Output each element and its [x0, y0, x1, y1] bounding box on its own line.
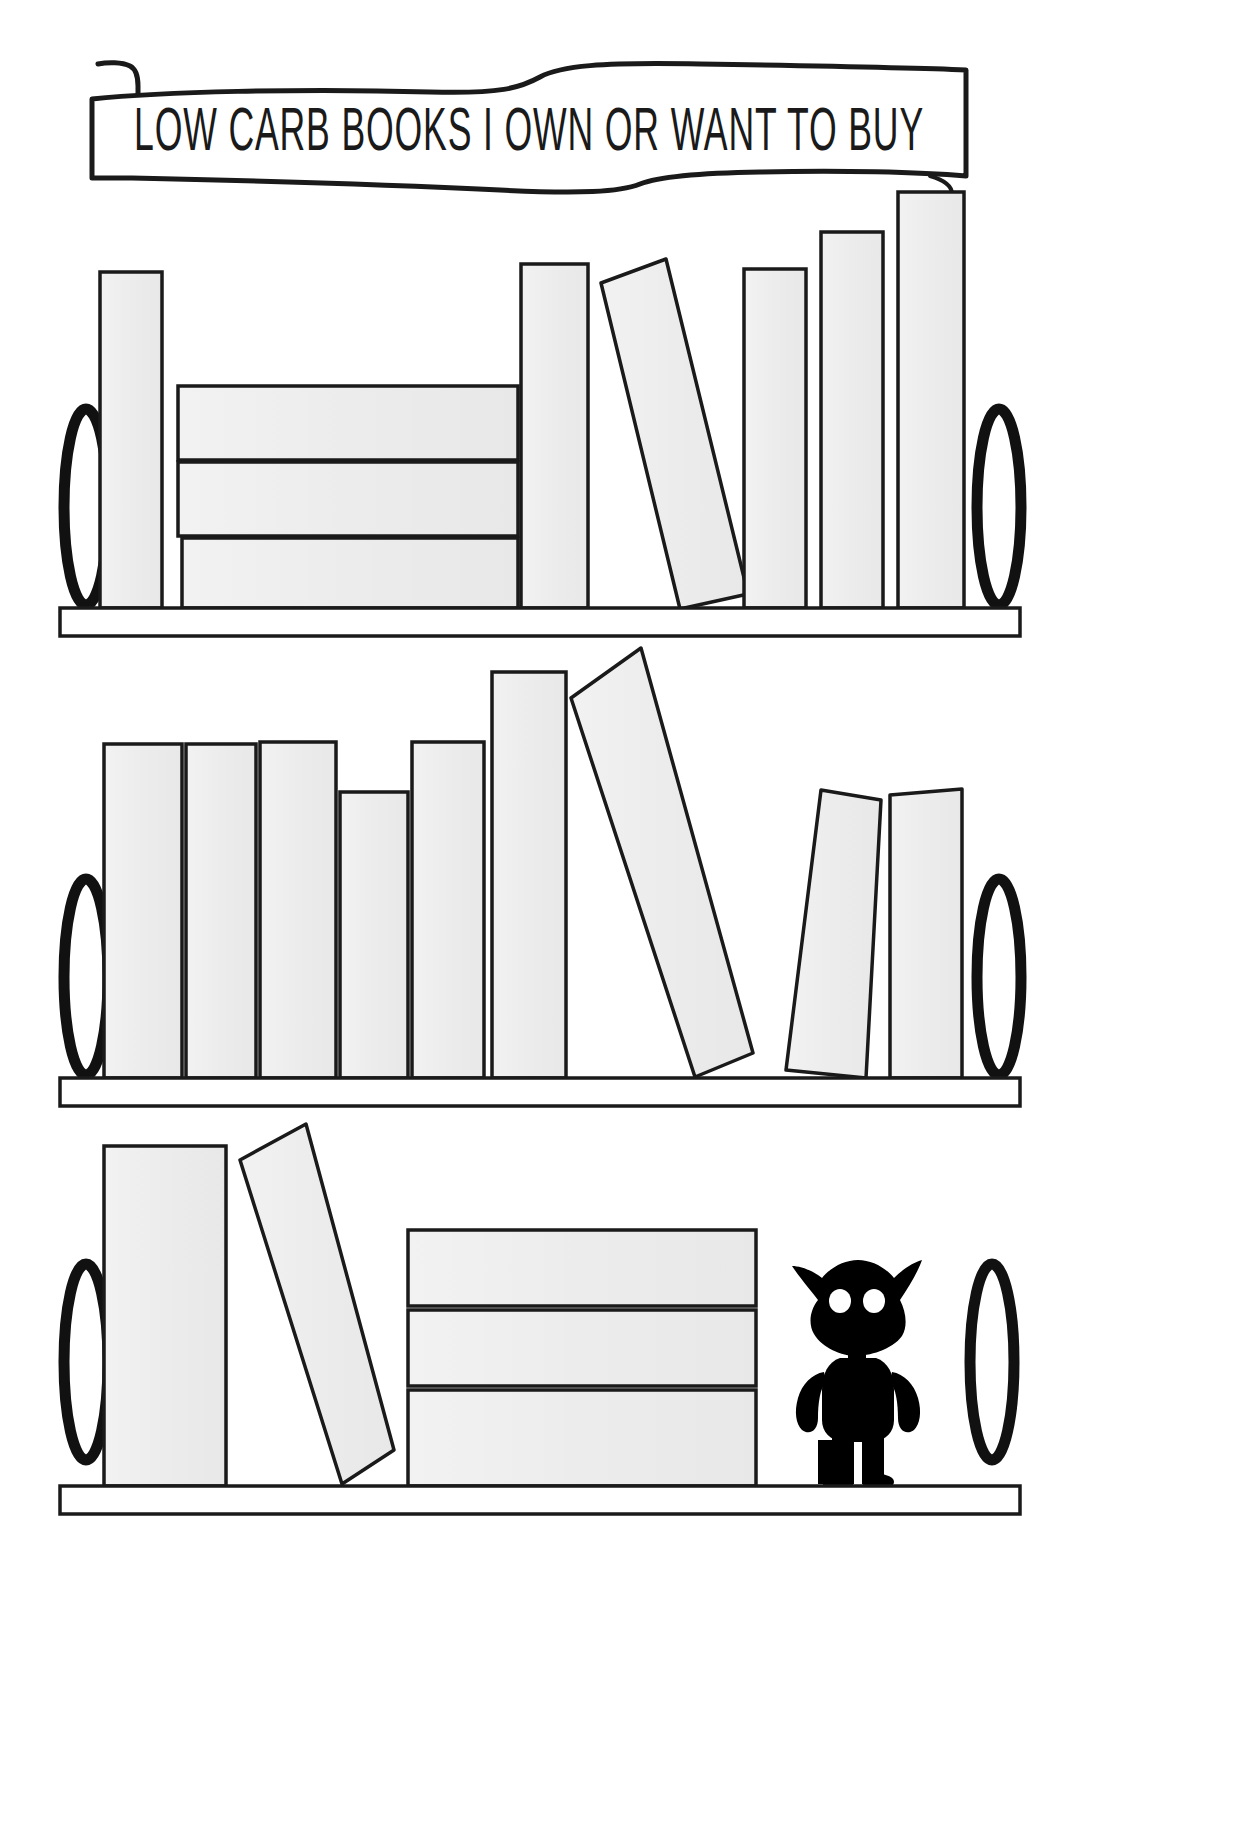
figure-torso [822, 1358, 894, 1442]
shelf-board [60, 1078, 1020, 1106]
figure-eye-right [863, 1289, 885, 1313]
book-flat[interactable] [178, 386, 518, 460]
figure-head [792, 1260, 922, 1356]
book-spine-tilted[interactable] [786, 790, 881, 1078]
book-spine[interactable] [821, 232, 883, 608]
shelf-top [60, 192, 1021, 636]
book-spine[interactable] [412, 742, 484, 1078]
book-spine[interactable] [260, 742, 336, 1078]
figure-arm-right [890, 1372, 920, 1432]
bookend-right-bottom [970, 1264, 1014, 1460]
title-banner: LOW CARB BOOKS I OWN OR WANT TO BUY [92, 63, 966, 194]
book-spine-tilted[interactable] [240, 1124, 394, 1484]
bookend-left-middle [64, 879, 108, 1075]
bookend-right-middle [977, 879, 1021, 1075]
book-spine[interactable] [898, 192, 964, 608]
book-spine[interactable] [492, 672, 566, 1078]
book-spine[interactable] [100, 272, 162, 608]
creature-figurine[interactable] [792, 1260, 922, 1490]
book-spine[interactable] [104, 744, 182, 1078]
book-spine-tilted[interactable] [571, 648, 753, 1077]
bookend-right-top [977, 409, 1021, 605]
banner-title: LOW CARB BOOKS I OWN OR WANT TO BUY [134, 94, 924, 163]
bookend-left-bottom [64, 1264, 108, 1460]
book-flat[interactable] [408, 1390, 756, 1486]
book-flat[interactable] [408, 1230, 756, 1306]
book-spine[interactable] [744, 269, 806, 608]
book-flat[interactable] [408, 1310, 756, 1386]
shelf-bottom [60, 1124, 1020, 1514]
shelf-middle [60, 648, 1021, 1106]
book-flat[interactable] [182, 538, 518, 608]
book-spine[interactable] [186, 744, 256, 1078]
bookshelf-worksheet-page: LOW CARB BOOKS I OWN OR WANT TO BUY [0, 0, 1252, 1826]
book-spine[interactable] [890, 789, 962, 1078]
book-spine[interactable] [340, 792, 408, 1078]
shelf-board [60, 608, 1020, 636]
book-spine[interactable] [104, 1146, 226, 1486]
shelf-board [60, 1486, 1020, 1514]
figure-arm-left [796, 1372, 826, 1432]
bookshelf-illustration: LOW CARB BOOKS I OWN OR WANT TO BUY [0, 0, 1252, 1826]
book-spine[interactable] [521, 264, 588, 608]
book-spine-tilted[interactable] [601, 259, 748, 609]
figure-eye-left [829, 1289, 851, 1313]
book-flat[interactable] [178, 462, 518, 536]
